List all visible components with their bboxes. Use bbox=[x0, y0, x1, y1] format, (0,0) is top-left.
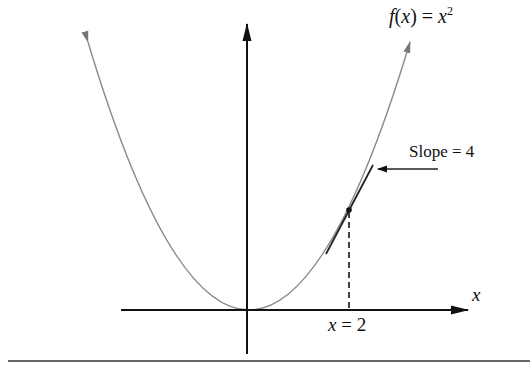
function-arg: (x) bbox=[395, 5, 417, 27]
slope-label: Slope = 4 bbox=[409, 142, 474, 162]
tangent-diagram bbox=[0, 0, 532, 371]
x-axis-label: x bbox=[472, 284, 480, 306]
parabola-curve bbox=[88, 42, 410, 310]
point-label: x = 2 bbox=[328, 314, 366, 336]
function-label: f(x) = x2 bbox=[389, 4, 453, 28]
tangent-point bbox=[346, 207, 352, 213]
